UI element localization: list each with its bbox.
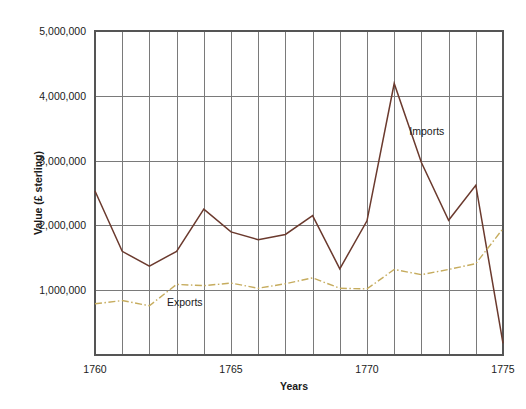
x-tick-label-1: 1765 [219,363,243,375]
series-annotation-imports: Imports [409,125,444,137]
series-annotation-exports: Exports [167,296,203,308]
x-axis-title: Years [280,380,308,392]
y-axis-title: Value (£ sterling) [32,151,44,235]
x-tick-label-2: 1770 [355,363,379,375]
chart-figure: 1,000,0002,000,0003,000,0004,000,0005,00… [0,0,526,409]
chart-background [0,0,526,409]
y-tick-label-1: 2,000,000 [39,219,86,231]
y-tick-label-2: 3,000,000 [39,155,86,167]
x-tick-label-0: 1760 [83,363,107,375]
y-tick-label-4: 5,000,000 [39,25,86,37]
x-tick-label-3: 1775 [491,363,515,375]
imports-exports-line-chart: 1,000,0002,000,0003,000,0004,000,0005,00… [0,0,526,409]
y-tick-label-3: 4,000,000 [39,90,86,102]
y-tick-label-0: 1,000,000 [39,284,86,296]
